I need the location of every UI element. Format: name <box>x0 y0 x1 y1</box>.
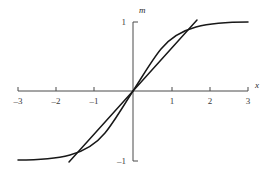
x-tick-label-2: 2 <box>208 96 213 106</box>
y-tick-label--1: –1 <box>116 156 126 166</box>
plot-svg: –3 –2 –1 1 2 3 1 –1 m x <box>0 0 271 180</box>
y-tick-label-1: 1 <box>122 17 127 27</box>
x-tick-label--1: –1 <box>89 96 99 106</box>
x-tick-label--3: –3 <box>13 96 24 106</box>
x-tick-label--2: –2 <box>51 96 61 106</box>
x-tick-label-1: 1 <box>170 96 175 106</box>
x-tick-label-3: 3 <box>246 96 251 106</box>
x-axis-label: x <box>254 80 259 90</box>
y-axis-label: m <box>139 5 146 15</box>
plot-figure: –3 –2 –1 1 2 3 1 –1 m x <box>0 0 271 180</box>
